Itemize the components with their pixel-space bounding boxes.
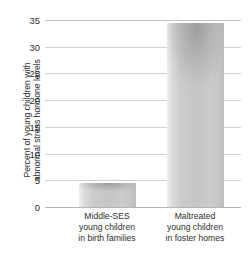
x-category-label: Maltreatedyoung childrenin foster homes: [135, 211, 248, 244]
y-tick-label: 25: [29, 68, 40, 79]
y-tick-label: 15: [29, 121, 40, 132]
x-category-label-line: young children: [135, 222, 248, 233]
y-axis-title: Percent of young children with abnormal …: [18, 25, 48, 215]
y-tick-label: 20: [29, 95, 40, 106]
plot-area: 05101520253035: [45, 20, 241, 207]
gridline: 35: [45, 20, 241, 21]
bar: [79, 183, 136, 207]
y-tick-label: 30: [29, 41, 40, 52]
y-tick-label: 35: [29, 15, 40, 26]
x-category-label-line: Maltreated: [135, 211, 248, 222]
gridline: 0: [45, 207, 241, 208]
bar-chart: Percent of young children with abnormal …: [0, 0, 248, 256]
y-tick-label: 0: [35, 202, 40, 213]
y-tick-label: 5: [35, 175, 40, 186]
bar: [167, 23, 224, 207]
x-category-label-line: in foster homes: [135, 233, 248, 244]
y-tick-label: 10: [29, 148, 40, 159]
